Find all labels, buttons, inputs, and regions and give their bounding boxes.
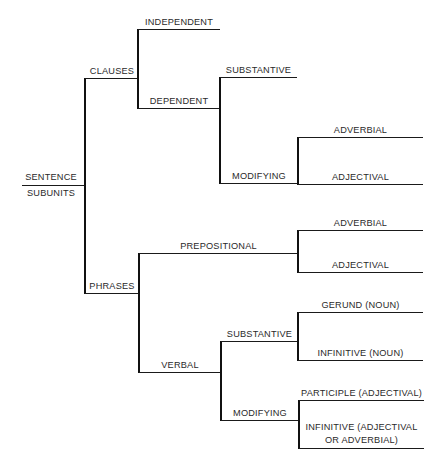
clause-substantive-label: SUBSTANTIVE (220, 65, 297, 76)
prepositional-label: PREPOSITIONAL (139, 241, 298, 252)
clause-modifying-connector (220, 183, 298, 184)
dependent-connector (138, 108, 221, 109)
clause-modifying-label: MODIFYING (220, 171, 298, 182)
root-branch (84, 78, 86, 294)
phrases-branch (138, 253, 140, 373)
dependent-branch (219, 77, 221, 184)
verbal-substantive-connector (221, 341, 298, 342)
verbal-modifying-label: MODIFYING (221, 408, 299, 419)
phrase-adjectival-connector (298, 272, 423, 273)
phrase-adverbial-label: ADVERBIAL (298, 218, 423, 229)
participle-label: PARTICIPLE (ADJECTIVAL) (299, 388, 424, 399)
gerund-connector (298, 312, 423, 313)
phrase-adjectival-label: ADJECTIVAL (298, 260, 423, 271)
dependent-label: DEPENDENT (138, 96, 220, 107)
clauses-label: CLAUSES (85, 66, 139, 77)
infinitive-noun-label: INFINITIVE (NOUN) (298, 348, 423, 359)
independent-label: INDEPENDENT (138, 17, 220, 28)
participle-connector (299, 400, 424, 401)
verbal-label: VERBAL (139, 360, 221, 371)
infinitive-modifier-label-line2: OR ADVERBIAL) (299, 435, 424, 446)
infinitive-noun-connector (298, 360, 423, 361)
clause-adjectival-label: ADJECTIVAL (298, 172, 423, 183)
infinitive-modifier-connector (299, 448, 424, 449)
clause-substantive-connector (220, 77, 297, 78)
root-connector (22, 185, 86, 186)
independent-connector (138, 29, 220, 30)
phrase-adverbial-connector (298, 230, 423, 231)
clause-adverbial-label: ADVERBIAL (298, 125, 423, 136)
verbal-modifying-connector (221, 420, 299, 421)
phrases-connector (85, 293, 139, 294)
clause-adverbial-connector (298, 137, 423, 138)
verbal-connector (139, 372, 221, 373)
verbal-substantive-label: SUBSTANTIVE (221, 329, 298, 340)
clause-adjectival-connector (298, 184, 423, 185)
root-label-line2: SUBUNITS (22, 188, 80, 199)
prepositional-connector (139, 253, 298, 254)
gerund-label: GERUND (NOUN) (298, 300, 423, 311)
infinitive-modifier-label-line1: INFINITIVE (ADJECTIVAL (299, 422, 424, 433)
sentence-subunits-tree-diagram: SENTENCE SUBUNITS CLAUSES INDEPENDENT DE… (0, 0, 446, 471)
root-label-line1: SENTENCE (22, 172, 80, 183)
phrases-label: PHRASES (85, 281, 139, 292)
clauses-connector (85, 78, 139, 79)
